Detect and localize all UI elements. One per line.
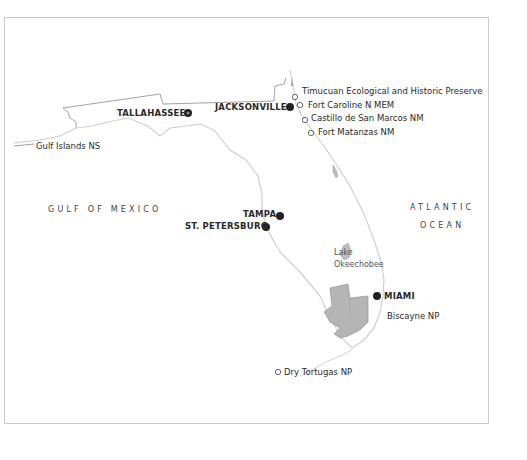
park-label-dry-tortugas: Dry Tortugas NP bbox=[284, 368, 352, 377]
lake-label-line1: Lake bbox=[334, 247, 353, 259]
park-label-fort-caroline: Fort Caroline N MEM bbox=[308, 101, 394, 110]
city-marker-tampa bbox=[276, 212, 284, 220]
park-label-fort-matanzas: Fort Matanzas NM bbox=[318, 128, 394, 137]
park-marker-fort-matanzas bbox=[308, 130, 313, 135]
lake-label-line2: Okeechobee bbox=[334, 259, 384, 271]
city-label-tampa: TAMPA bbox=[243, 210, 276, 219]
water-label-gulf-of-mexico: GULF OF MEXICO bbox=[48, 206, 162, 214]
park-label-biscayne: Biscayne NP bbox=[387, 312, 439, 321]
city-label-st-petersburg: ST. PETERSBURG bbox=[185, 222, 268, 231]
city-label-miami: MIAMI bbox=[384, 292, 415, 301]
park-marker-dry-tortugas bbox=[275, 369, 280, 374]
water-label-ocean: OCEAN bbox=[420, 222, 464, 230]
park-marker-timucuan bbox=[292, 94, 297, 99]
water-label-atlantic: ATLANTIC bbox=[410, 204, 474, 212]
park-marker-fort-caroline bbox=[297, 102, 302, 107]
everglades-area bbox=[324, 284, 368, 338]
park-label-gulf-islands: Gulf Islands NS bbox=[36, 142, 100, 151]
park-label-timucuan: Timucuan Ecological and Historic Preserv… bbox=[302, 87, 482, 96]
city-marker-miami bbox=[373, 292, 381, 300]
city-label-tallahassee: TALLAHASSEE bbox=[117, 109, 186, 118]
park-marker-castillo bbox=[302, 117, 307, 122]
city-marker-jacksonville bbox=[286, 103, 294, 111]
park-label-castillo: Castillo de San Marcos NM bbox=[311, 114, 423, 123]
city-label-jacksonville: JACKSONVILLE bbox=[215, 103, 287, 112]
